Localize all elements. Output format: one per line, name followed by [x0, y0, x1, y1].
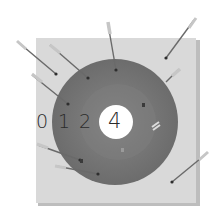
ring-label-2: 2 — [79, 112, 91, 131]
bullseye-label: 4 — [108, 111, 121, 132]
target-illustration — [0, 0, 224, 216]
ring-label-0: 0 — [36, 112, 48, 131]
ring-label-1: 1 — [58, 112, 70, 131]
